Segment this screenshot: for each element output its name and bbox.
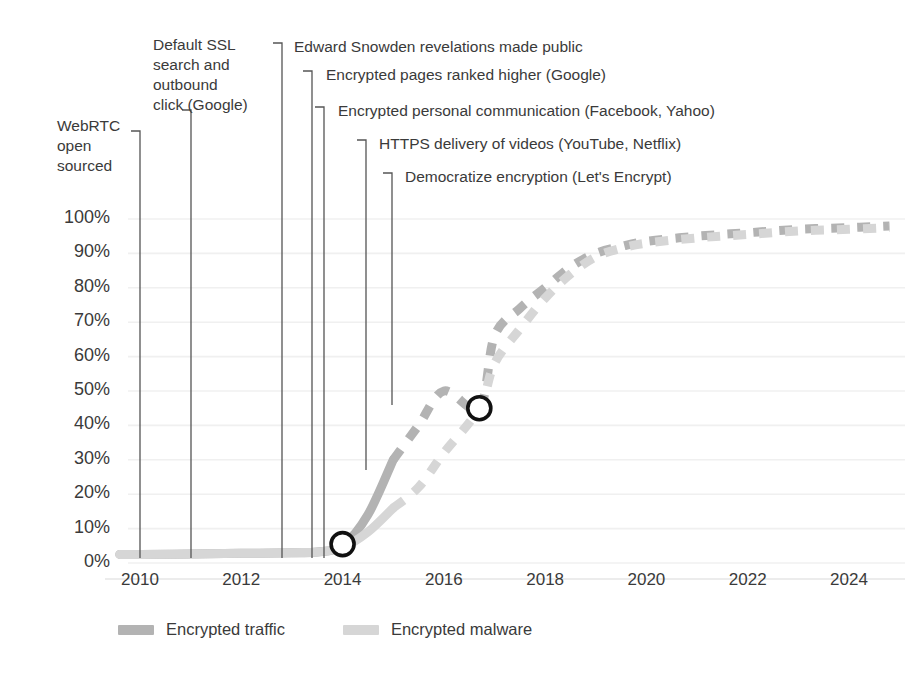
y-axis-tick-10: 10% xyxy=(48,517,110,538)
x-axis-tick-2014: 2014 xyxy=(308,570,378,590)
y-axis-tick-80: 80% xyxy=(48,276,110,297)
legend-swatch-encrypted-traffic xyxy=(118,625,154,635)
x-axis-tick-2022: 2022 xyxy=(713,570,783,590)
annotation-label-0: WebRTC open sourced xyxy=(57,116,120,176)
y-axis-tick-0: 0% xyxy=(48,551,110,572)
x-axis-tick-2012: 2012 xyxy=(206,570,276,590)
annotation-label-2: Edward Snowden revelations made public xyxy=(294,37,583,57)
y-axis-tick-30: 30% xyxy=(48,448,110,469)
chart-legend: Encrypted traffic Encrypted malware xyxy=(118,620,580,639)
x-axis-tick-2018: 2018 xyxy=(510,570,580,590)
legend-item-encrypted-malware: Encrypted malware xyxy=(343,620,532,639)
y-axis-tick-70: 70% xyxy=(48,310,110,331)
x-axis-tick-2024: 2024 xyxy=(814,570,884,590)
annotation-label-3: Encrypted pages ranked higher (Google) xyxy=(326,65,606,85)
legend-label-encrypted-malware: Encrypted malware xyxy=(391,620,532,639)
y-axis-tick-90: 90% xyxy=(48,241,110,262)
legend-swatch-encrypted-malware xyxy=(343,625,379,635)
x-axis-tick-2020: 2020 xyxy=(611,570,681,590)
y-axis-tick-50: 50% xyxy=(48,379,110,400)
x-axis-tick-2010: 2010 xyxy=(105,570,175,590)
x-axis-tick-2016: 2016 xyxy=(409,570,479,590)
annotation-label-4: Encrypted personal communication (Facebo… xyxy=(338,101,715,121)
annotation-label-6: Democratize encryption (Let's Encrypt) xyxy=(405,167,672,187)
y-axis-tick-60: 60% xyxy=(48,345,110,366)
annotation-label-5: HTTPS delivery of videos (YouTube, Netfl… xyxy=(379,134,681,154)
y-axis-tick-20: 20% xyxy=(48,482,110,503)
y-axis-tick-100: 100% xyxy=(48,207,110,228)
annotation-label-1: Default SSL search and outbound click (G… xyxy=(153,35,248,115)
encryption-adoption-chart: 0%10%20%30%40%50%60%70%80%90%100% 201020… xyxy=(0,0,922,678)
legend-label-encrypted-traffic: Encrypted traffic xyxy=(166,620,285,639)
y-axis-tick-40: 40% xyxy=(48,413,110,434)
legend-item-encrypted-traffic: Encrypted traffic xyxy=(118,620,285,639)
